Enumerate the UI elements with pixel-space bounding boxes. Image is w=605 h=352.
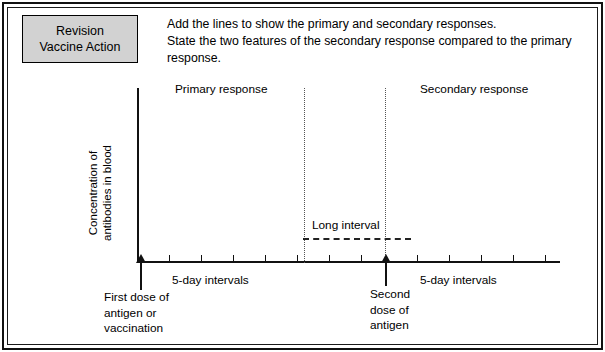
second-dose-label-line-1: Second xyxy=(370,287,410,303)
worksheet-page: Revision Vaccine Action Add the lines to… xyxy=(0,0,605,352)
y-axis-line xyxy=(137,88,139,263)
x-axis-tick xyxy=(449,255,450,262)
second-dose-label-line-3: antigen xyxy=(370,318,410,334)
interval-guide-line-end xyxy=(385,88,387,263)
first-dose-label: First dose of antigen or vaccination xyxy=(104,290,169,337)
x-axis-tick xyxy=(233,255,234,262)
x-axis-tick xyxy=(417,255,418,262)
secondary-response-label: Secondary response xyxy=(420,82,528,98)
y-axis-label: Concentration of antibodies in blood xyxy=(86,128,115,258)
interval-guide-line-start xyxy=(304,88,306,263)
first-dose-arrow xyxy=(140,262,142,290)
second-dose-arrow xyxy=(385,262,387,286)
x-axis-tick xyxy=(169,255,170,262)
x-axis-tick xyxy=(513,255,514,262)
second-dose-label: Second dose of antigen xyxy=(370,287,410,334)
x-axis-tick xyxy=(265,255,266,262)
first-dose-label-line-2: antigen or xyxy=(104,306,169,322)
y-axis-label-line-2: antibodies in blood xyxy=(100,128,114,258)
second-dose-label-line-2: dose of xyxy=(370,303,410,319)
first-dose-label-line-3: vaccination xyxy=(104,321,169,337)
x-axis-tick xyxy=(329,255,330,262)
x-axis-interval-label-right: 5-day intervals xyxy=(420,273,497,289)
antibody-response-chart: Concentration of antibodies in blood Pri… xyxy=(0,0,605,352)
long-interval-label: Long interval xyxy=(312,218,380,234)
primary-response-label: Primary response xyxy=(175,82,267,98)
long-interval-rule xyxy=(303,238,411,240)
x-axis-interval-label-left: 5-day intervals xyxy=(172,273,249,289)
x-axis-tick xyxy=(361,255,362,262)
x-axis-tick xyxy=(481,255,482,262)
x-axis-tick xyxy=(297,255,298,262)
y-axis-label-line-1: Concentration of xyxy=(86,128,100,258)
x-axis-tick xyxy=(545,255,546,262)
x-axis-tick xyxy=(201,255,202,262)
first-dose-label-line-1: First dose of xyxy=(104,290,169,306)
